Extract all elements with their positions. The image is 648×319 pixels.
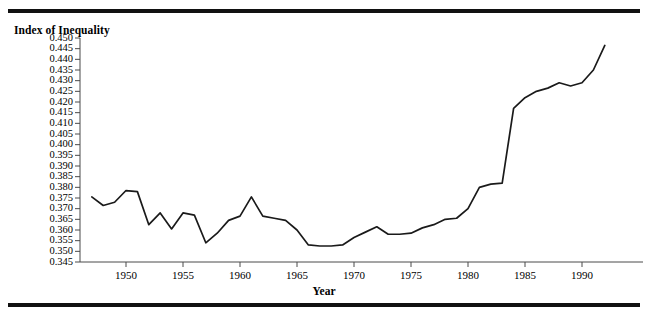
data-line-series [92, 45, 605, 246]
y-tick-label: 0.395 [31, 150, 73, 161]
y-tick-label: 0.405 [31, 129, 73, 140]
y-tick-label: 0.380 [31, 182, 73, 193]
y-tick-label: 0.425 [31, 86, 73, 97]
x-tick-label: 1990 [559, 270, 605, 281]
y-tick-label: 0.410 [31, 118, 73, 129]
y-tick-label: 0.445 [31, 43, 73, 54]
x-tick-label: 1985 [502, 270, 548, 281]
y-tick-label: 0.370 [31, 203, 73, 214]
x-tick-label: 1965 [274, 270, 320, 281]
y-tick-label: 0.345 [31, 257, 73, 268]
y-tick-label: 0.375 [31, 193, 73, 204]
y-tick-label: 0.355 [31, 235, 73, 246]
y-tick-label: 0.435 [31, 65, 73, 76]
y-tick-label: 0.360 [31, 225, 73, 236]
x-tick-label: 1975 [388, 270, 434, 281]
y-tick-label: 0.390 [31, 161, 73, 172]
y-tick-label: 0.450 [31, 33, 73, 44]
x-tick-label: 1970 [331, 270, 377, 281]
x-tick-label: 1980 [445, 270, 491, 281]
y-tick-label: 0.385 [31, 171, 73, 182]
y-tick-label: 0.400 [31, 139, 73, 150]
axes-group [75, 38, 643, 267]
x-tick-label: 1960 [217, 270, 263, 281]
y-tick-label: 0.440 [31, 54, 73, 65]
x-tick-label: 1955 [160, 270, 206, 281]
figure-container: Index of Inequality Year 0.3450.3500.355… [0, 0, 648, 319]
y-tick-label: 0.350 [31, 246, 73, 257]
x-tick-label: 1950 [103, 270, 149, 281]
y-tick-label: 0.430 [31, 75, 73, 86]
y-tick-label: 0.420 [31, 97, 73, 108]
line-chart-plot [0, 0, 648, 319]
y-tick-label: 0.365 [31, 214, 73, 225]
y-tick-label: 0.415 [31, 107, 73, 118]
data-series-group [92, 45, 605, 246]
